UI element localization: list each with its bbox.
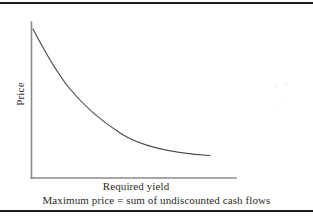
plot-area: Price Required yield (0, 0, 313, 182)
price-yield-chart (0, 0, 313, 182)
figure-caption: Maximum price = sum of undiscounted cash… (0, 194, 313, 206)
x-axis-label: Required yield (76, 180, 196, 192)
y-axis-label: Price (14, 68, 26, 120)
bottom-divider-rule (0, 210, 313, 212)
price-yield-curve (33, 29, 210, 156)
figure-container: Price Required yield Maximum price = sum… (0, 0, 313, 220)
